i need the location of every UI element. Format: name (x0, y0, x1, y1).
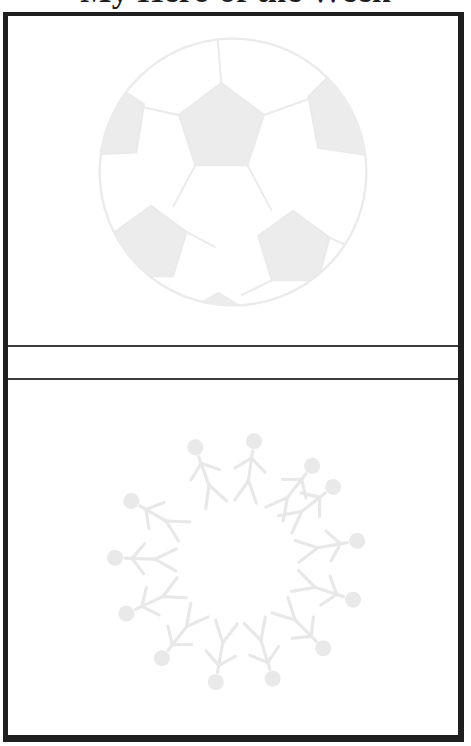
hero-drawing-box (8, 16, 458, 345)
hero-description-box (8, 380, 458, 735)
hero-name-strip (8, 347, 458, 378)
page-title: My Hero of the Week (0, 0, 471, 10)
worksheet-page: My Hero of the Week (0, 0, 471, 746)
worksheet-frame (3, 12, 464, 742)
soccer-ball-watermark (88, 27, 378, 317)
circle-of-people-watermark (82, 407, 392, 717)
